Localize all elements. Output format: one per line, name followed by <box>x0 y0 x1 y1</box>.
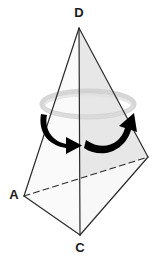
face-D-A-C <box>24 28 80 235</box>
diagram-canvas: D A C <box>0 0 162 263</box>
tetrahedron-figure: D A C <box>0 0 162 263</box>
vertex-label-A: A <box>9 187 19 202</box>
vertex-label-D: D <box>74 5 83 20</box>
vertex-label-C: C <box>75 240 85 255</box>
